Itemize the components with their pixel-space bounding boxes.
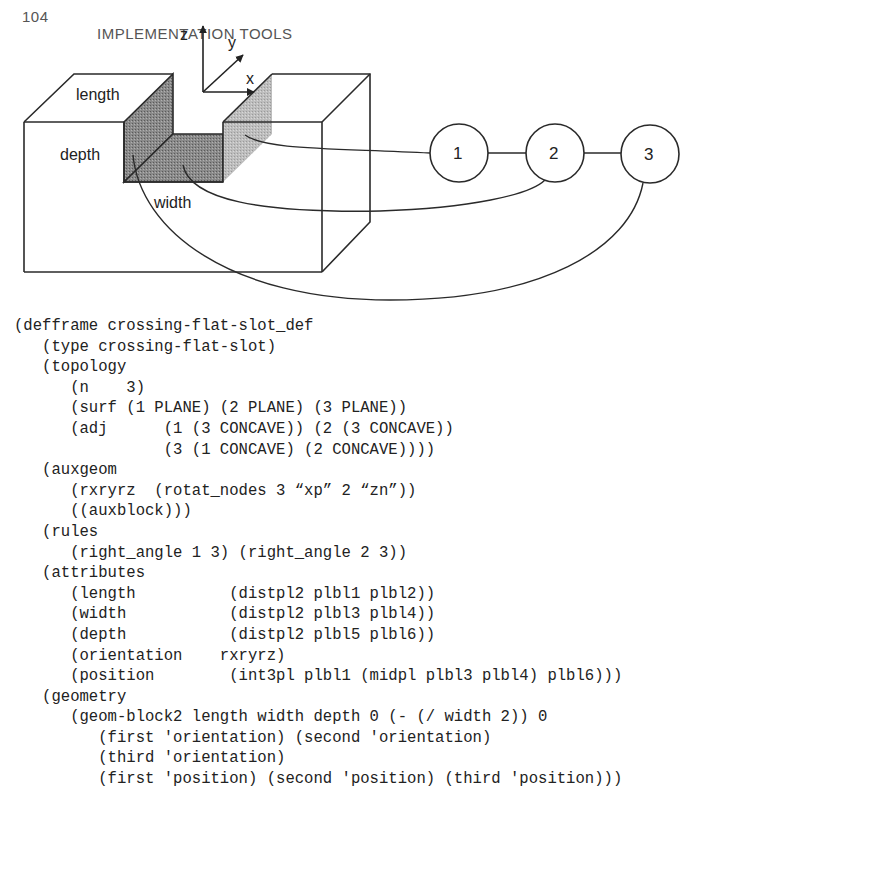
code-line: (rules (14, 522, 622, 543)
code-line: (adj (1 (3 CONCAVE)) (2 (3 CONCAVE)) (14, 419, 622, 440)
code-line: (geom-block2 length width depth 0 (- (/ … (14, 707, 622, 728)
code-line: (n 3) (14, 378, 622, 399)
node-2-label: 2 (549, 144, 558, 163)
code-line: (first 'orientation) (second 'orientatio… (14, 728, 622, 749)
link-face1-node1 (245, 135, 430, 153)
code-line: (length (distpl2 plbl1 plbl2)) (14, 584, 622, 605)
code-line: (position (int3pl plbl1 (midpl plbl3 plb… (14, 666, 622, 687)
block-3d (24, 74, 370, 272)
code-line: (rxryrz (rotat_nodes 3 “xp” 2 “zn”)) (14, 481, 622, 502)
code-line: (3 (1 CONCAVE) (2 CONCAVE)))) (14, 440, 622, 461)
code-line: (topology (14, 357, 622, 378)
code-line: (geometry (14, 687, 622, 708)
code-line: (width (distpl2 plbl3 plbl4)) (14, 604, 622, 625)
depth-label: depth (60, 146, 100, 163)
code-line: (attributes (14, 563, 622, 584)
code-line: (third 'orientation) (14, 748, 622, 769)
code-line: (type crossing-flat-slot) (14, 337, 622, 358)
length-label: length (76, 86, 120, 103)
code-line: (right_angle 1 3) (right_angle 2 3)) (14, 543, 622, 564)
code-line: (surf (1 PLANE) (2 PLANE) (3 PLANE)) (14, 398, 622, 419)
axis-z-label: z (180, 26, 188, 43)
code-line: (defframe crossing-flat-slot_def (14, 316, 622, 337)
lisp-code-listing: (defframe crossing-flat-slot_def (type c… (14, 316, 622, 790)
width-label: width (153, 194, 191, 211)
code-line: (orientation rxryrz) (14, 646, 622, 667)
slot-feature-diagram: z y x length depth width 1 2 3 (0, 0, 873, 310)
axis-x-label: x (246, 70, 254, 87)
code-line: ((auxblock))) (14, 501, 622, 522)
slot-right-wall (223, 74, 272, 182)
link-face2-node2 (183, 165, 545, 211)
code-line: (depth (distpl2 plbl5 plbl6)) (14, 625, 622, 646)
axis-y-label: y (228, 34, 236, 51)
node-3-label: 3 (644, 145, 653, 164)
code-line: (auxgeom (14, 460, 622, 481)
node-1-label: 1 (453, 144, 462, 163)
code-line: (first 'position) (second 'position) (th… (14, 769, 622, 790)
